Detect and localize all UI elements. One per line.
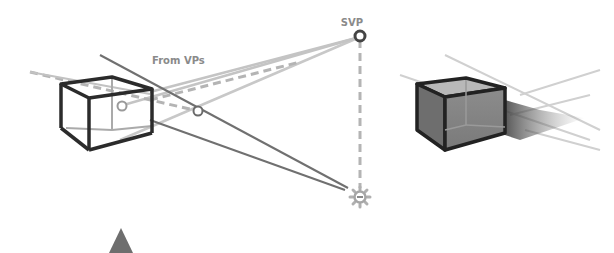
solid-cube <box>417 78 505 150</box>
vanishing-point-icon <box>118 102 127 111</box>
svp-guide-lines <box>120 37 360 140</box>
svp-marker-icon <box>355 31 365 41</box>
wireframe-cube <box>61 77 152 150</box>
vanishing-point-icon <box>194 107 203 116</box>
svp-label: SVP <box>341 17 363 28</box>
viewer-triangle-icon <box>109 228 133 253</box>
sun-icon <box>350 187 370 207</box>
perspective-diagram: SVP From VPs <box>0 0 614 253</box>
from-vps-label: From VPs <box>152 55 205 66</box>
